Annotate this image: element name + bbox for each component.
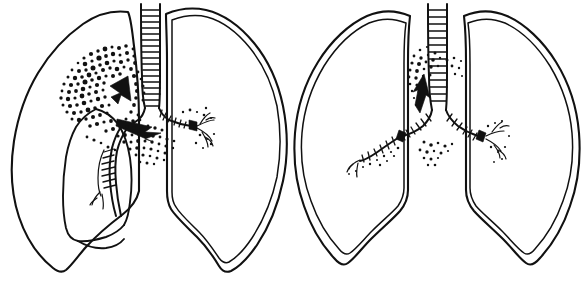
- left-figure-trachea-right-wall: [159, 4, 160, 108]
- illustration-canvas: Lungs with extensive hilar infiltrate an…: [0, 0, 581, 293]
- lung-illustration-svg: [0, 0, 581, 293]
- left-figure-bronchial-obstruction-marker: [189, 120, 197, 131]
- background-rect: [0, 0, 581, 293]
